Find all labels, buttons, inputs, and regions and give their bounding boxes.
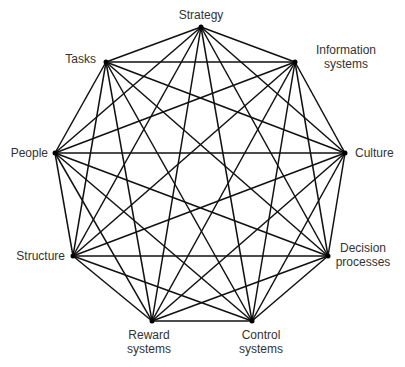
edge-decision-processes-people (55, 153, 328, 256)
node-tasks (104, 60, 109, 65)
edge-decision-processes-control-systems (252, 256, 328, 321)
control-systems-label-line2: systems (239, 342, 283, 356)
node-culture (343, 151, 348, 156)
node-people (53, 151, 58, 156)
edge-control-systems-people (55, 153, 252, 321)
node-label-culture: Culture (355, 146, 394, 160)
node-label-people: People (11, 146, 48, 160)
edge-culture-tasks (106, 62, 345, 153)
reward-systems-label-line1: Reward (127, 328, 171, 342)
node-label-decision-processes: Decision processes (336, 241, 391, 269)
edges (55, 27, 345, 321)
node-label-tasks: Tasks (65, 52, 96, 66)
node-structure (71, 254, 76, 259)
people-label: People (11, 146, 48, 160)
culture-label: Culture (355, 146, 394, 160)
node-strategy (199, 25, 204, 30)
node-label-reward-systems: Reward systems (127, 328, 171, 356)
information-systems-label-line1: Information (316, 43, 376, 57)
strategy-label: Strategy (179, 8, 224, 22)
node-reward-systems (150, 319, 155, 324)
node-label-information-systems: Information systems (316, 43, 376, 71)
node-decision-processes (326, 254, 331, 259)
structure-label: Structure (16, 249, 65, 263)
edge-reward-systems-structure (73, 256, 152, 321)
node-label-control-systems: Control systems (239, 328, 283, 356)
decision-processes-label-line2: processes (336, 255, 391, 269)
edge-strategy-tasks (106, 27, 201, 62)
edge-information-systems-people (55, 62, 295, 153)
control-systems-label-line1: Control (239, 328, 283, 342)
information-systems-label-line2: systems (316, 57, 376, 71)
edge-culture-structure (73, 153, 345, 256)
edge-strategy-information-systems (201, 27, 295, 62)
decision-processes-label-line1: Decision (336, 241, 391, 255)
node-label-structure: Structure (16, 249, 65, 263)
tasks-label: Tasks (65, 52, 96, 66)
node-label-strategy: Strategy (179, 8, 224, 22)
reward-systems-label-line2: systems (127, 342, 171, 356)
node-information-systems (293, 60, 298, 65)
node-control-systems (250, 319, 255, 324)
